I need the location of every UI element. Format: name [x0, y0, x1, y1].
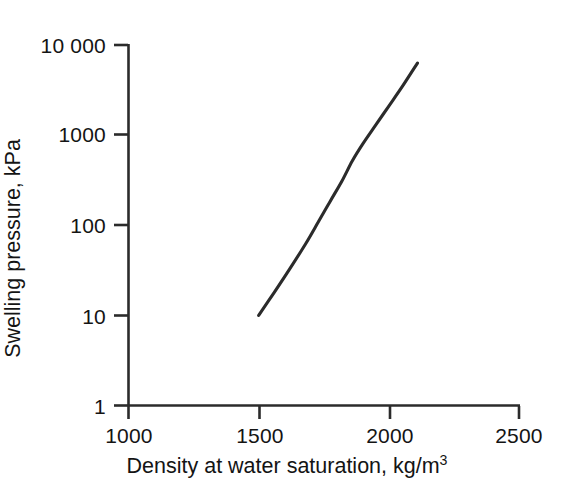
- x-axis-title-superscript: 3: [440, 452, 448, 468]
- data-series-line: [259, 63, 418, 315]
- x-tick-label-2000: 2000: [366, 425, 414, 446]
- plot-area: [0, 0, 574, 497]
- x-tick-label-1000: 1000: [105, 425, 153, 446]
- x-axis-title-text: Density at water saturation, kg/m: [127, 454, 440, 478]
- y-axis-title-text: Swelling pressure, kPa: [1, 139, 26, 358]
- chart-figure: 10 000 1000 100 10 1 1000 1500 2000 2500…: [0, 0, 574, 497]
- x-axis-ticks: [129, 406, 520, 419]
- y-axis-title: Swelling pressure, kPa: [0, 0, 40, 497]
- x-tick-label-1500: 1500: [236, 425, 284, 446]
- x-tick-label-2500: 2500: [495, 425, 543, 446]
- y-axis-ticks: [114, 45, 128, 406]
- x-axis-title: Density at water saturation, kg/m3: [0, 455, 574, 479]
